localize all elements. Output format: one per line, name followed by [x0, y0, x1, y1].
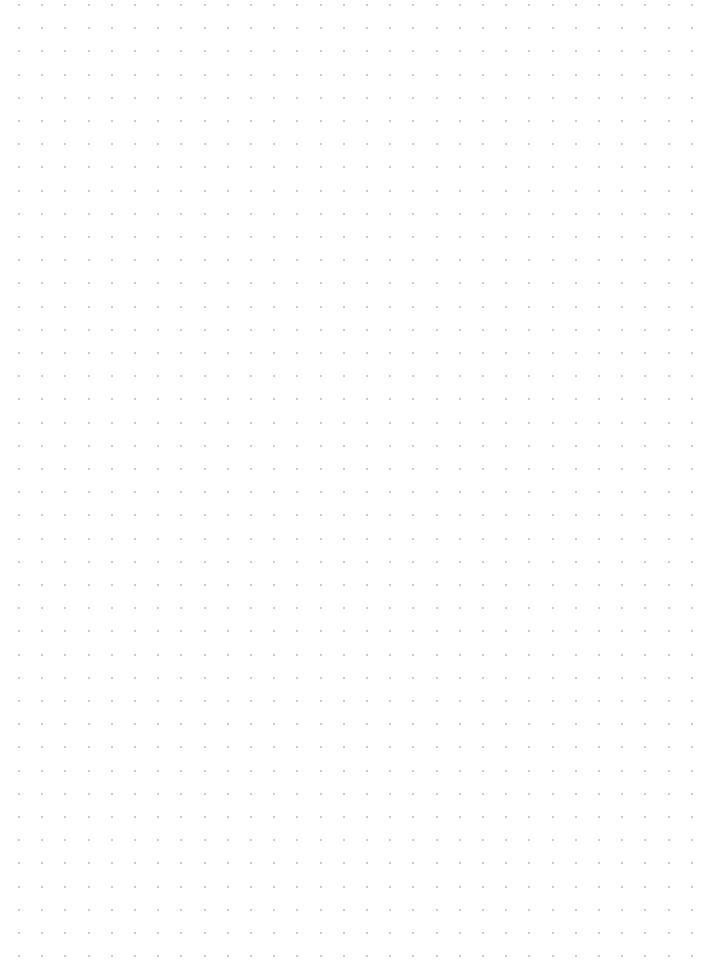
grid-dot: [296, 236, 298, 238]
grid-dot: [250, 746, 252, 748]
grid-dot: [296, 538, 298, 540]
grid-dot: [273, 306, 275, 308]
grid-dot: [668, 468, 670, 470]
grid-dot: [204, 561, 206, 563]
grid-dot: [157, 329, 159, 331]
grid-dot: [412, 584, 414, 586]
grid-dot: [111, 213, 113, 215]
grid-dot: [250, 282, 252, 284]
grid-dot: [575, 74, 577, 76]
grid-dot: [505, 120, 507, 122]
grid-dot: [180, 862, 182, 864]
grid-dot: [621, 282, 623, 284]
grid-dot: [88, 329, 90, 331]
grid-dot: [412, 793, 414, 795]
grid-dot: [180, 422, 182, 424]
grid-dot: [296, 422, 298, 424]
grid-dot: [668, 306, 670, 308]
grid-dot: [227, 491, 229, 493]
grid-dot: [320, 282, 322, 284]
grid-dot: [180, 468, 182, 470]
grid-dot: [482, 190, 484, 192]
grid-dot: [250, 514, 252, 516]
grid-dot: [552, 468, 554, 470]
grid-dot: [88, 770, 90, 772]
grid-dot: [668, 143, 670, 145]
grid-dot: [598, 770, 600, 772]
grid-dot: [621, 352, 623, 354]
grid-dot: [412, 329, 414, 331]
grid-dot: [320, 654, 322, 656]
grid-dot: [389, 491, 391, 493]
grid-dot: [575, 862, 577, 864]
grid-dot: [482, 97, 484, 99]
grid-dot: [621, 561, 623, 563]
grid-dot: [273, 630, 275, 632]
grid-dot: [157, 74, 159, 76]
grid-dot: [528, 862, 530, 864]
grid-dot: [691, 166, 693, 168]
grid-dot: [505, 97, 507, 99]
grid-dot: [227, 236, 229, 238]
grid-dot: [552, 445, 554, 447]
grid-dot: [296, 120, 298, 122]
grid-dot: [505, 398, 507, 400]
grid-dot: [575, 816, 577, 818]
grid-dot: [552, 584, 554, 586]
grid-dot: [436, 143, 438, 145]
grid-dot: [343, 862, 345, 864]
grid-dot: [134, 514, 136, 516]
grid-dot: [528, 166, 530, 168]
grid-dot: [598, 723, 600, 725]
grid-dot: [644, 538, 646, 540]
grid-dot: [505, 259, 507, 261]
grid-dot: [552, 120, 554, 122]
grid-dot: [18, 398, 20, 400]
grid-dot: [320, 97, 322, 99]
grid-dot: [180, 491, 182, 493]
grid-dot: [111, 677, 113, 679]
grid-dot: [204, 886, 206, 888]
grid-dot: [88, 74, 90, 76]
grid-dot: [296, 97, 298, 99]
grid-dot: [64, 793, 66, 795]
grid-dot: [528, 746, 530, 748]
grid-dot: [134, 654, 136, 656]
grid-dot: [621, 816, 623, 818]
grid-dot: [296, 909, 298, 911]
grid-dot: [41, 700, 43, 702]
grid-dot: [552, 862, 554, 864]
grid-dot: [528, 932, 530, 934]
grid-dot: [575, 839, 577, 841]
grid-dot: [296, 166, 298, 168]
grid-dot: [18, 491, 20, 493]
grid-dot: [459, 491, 461, 493]
grid-dot: [644, 886, 646, 888]
grid-dot: [691, 97, 693, 99]
grid-dot: [320, 839, 322, 841]
grid-dot: [505, 932, 507, 934]
grid-dot: [366, 27, 368, 29]
grid-dot: [482, 746, 484, 748]
grid-dot: [644, 97, 646, 99]
grid-dot: [320, 491, 322, 493]
grid-dot: [505, 770, 507, 772]
grid-dot: [621, 491, 623, 493]
grid-dot: [691, 584, 693, 586]
grid-dot: [575, 306, 577, 308]
grid-dot: [64, 746, 66, 748]
grid-dot: [320, 955, 322, 957]
grid-dot: [412, 677, 414, 679]
grid-dot: [552, 97, 554, 99]
grid-dot: [412, 445, 414, 447]
grid-dot: [528, 561, 530, 563]
grid-dot: [528, 654, 530, 656]
grid-dot: [528, 306, 530, 308]
grid-dot: [459, 723, 461, 725]
grid-dot: [18, 746, 20, 748]
grid-dot: [575, 584, 577, 586]
grid-dot: [691, 816, 693, 818]
grid-dot: [691, 375, 693, 377]
grid-dot: [227, 74, 229, 76]
grid-dot: [644, 4, 646, 6]
